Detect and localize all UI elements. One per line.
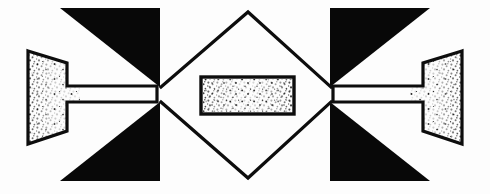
center-stippled-rectangle [198,74,297,117]
technical-diagram-svg [0,0,490,194]
center-bar-stipple-dense [198,74,297,117]
figure-canvas [0,0,490,194]
